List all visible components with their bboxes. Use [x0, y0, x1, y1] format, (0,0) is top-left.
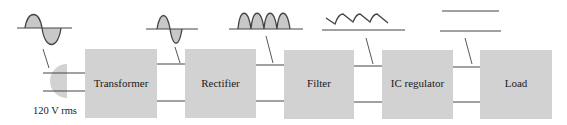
waveform-ac-input	[17, 15, 72, 69]
svg-text:Transformer: Transformer	[94, 77, 149, 89]
svg-text:IC regulator: IC regulator	[391, 77, 445, 89]
power-supply-diagram: 120 V rms Transformer Rectifier Filter	[0, 0, 567, 125]
svg-text:Rectifier: Rectifier	[201, 77, 240, 89]
block-transformer: Transformer	[85, 49, 157, 118]
block-load: Load	[480, 50, 552, 119]
source-voltage-label: 120 V rms	[33, 105, 77, 116]
block-rectifier: Rectifier	[185, 49, 256, 118]
block-ic-regulator: IC regulator	[382, 50, 453, 119]
svg-text:Filter: Filter	[307, 77, 331, 89]
svg-text:Load: Load	[505, 77, 528, 89]
ac-plug-icon	[50, 64, 67, 98]
block-filter: Filter	[284, 50, 354, 119]
